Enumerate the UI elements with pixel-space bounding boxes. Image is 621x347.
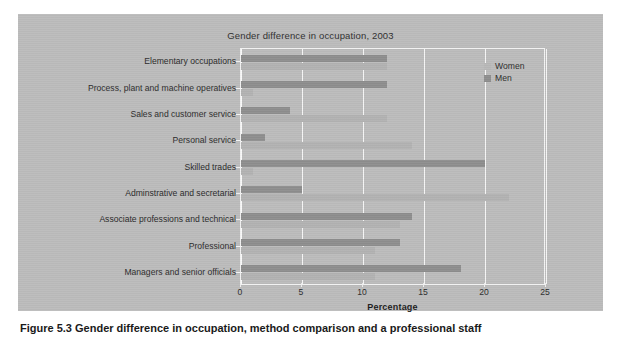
x-axis-label-15: 15 [418,287,428,297]
bar-series-group [241,49,544,284]
bar-women-7 [241,89,253,96]
legend-item-men: Men [484,72,554,84]
bar-men-0 [241,265,461,272]
gridline-25 [546,49,547,284]
legend-label-women: Women [495,61,524,71]
y-axis-label-7: Process, plant and machine operatives [26,83,236,93]
y-axis-label-1: Professional [26,241,236,251]
figure-container: Gender difference in occupation, 2003 Ma… [0,0,621,347]
y-axis-label-0: Managers and senior officials [26,267,236,277]
chart-plate: Gender difference in occupation, 2003 Ma… [18,14,603,311]
bar-women-4 [241,168,253,175]
x-axis-label-5: 5 [299,287,304,297]
bar-men-3 [241,186,302,193]
legend-item-women: Women [484,60,554,72]
y-axis-label-6: Sales and customer service [26,109,236,119]
bar-women-1 [241,247,375,254]
y-axis-label-3: Adminstrative and secretarial [26,188,236,198]
chart-title: Gender difference in occupation, 2003 [18,30,603,41]
x-axis-label-0: 0 [238,287,243,297]
y-axis-category-labels: Managers and senior officialsProfessiona… [18,48,236,285]
y-axis-label-5: Personal service [26,135,236,145]
legend-label-men: Men [495,73,512,83]
y-axis-label-8: Elementary occupations [26,56,236,66]
bar-men-4 [241,160,485,167]
x-axis-label-25: 25 [540,287,550,297]
bar-men-6 [241,107,290,114]
x-axis-label-20: 20 [479,287,489,297]
x-axis-title: Percentage [240,302,545,312]
figure-caption: Figure 5.3 Gender difference in occupati… [20,322,600,334]
bar-men-8 [241,55,387,62]
legend-swatch-men-icon [484,75,491,82]
x-axis-label-10: 10 [357,287,367,297]
legend-swatch-women-icon [484,63,491,70]
bar-women-5 [241,142,412,149]
bar-women-6 [241,115,387,122]
bar-women-0 [241,273,375,280]
bar-women-2 [241,221,400,228]
bar-women-8 [241,63,387,70]
y-axis-label-2: Associate professions and technical [26,214,236,224]
chart-legend: Women Men [484,60,554,84]
x-axis-tick-labels: 0510152025 [240,287,545,301]
bar-men-7 [241,81,387,88]
bar-men-1 [241,239,400,246]
bar-men-2 [241,213,412,220]
bar-men-5 [241,134,265,141]
y-axis-label-4: Skilled trades [26,162,236,172]
bar-women-3 [241,194,509,201]
